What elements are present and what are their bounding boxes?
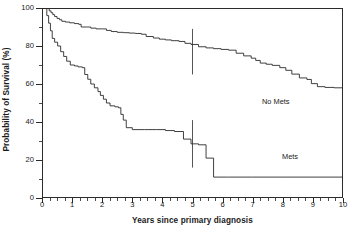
y-axis-title-text: Probability of Survival (%) xyxy=(2,47,11,151)
x-tick-minor xyxy=(230,198,231,201)
y-tick-label: 20 xyxy=(8,156,34,164)
x-tick-minor xyxy=(87,198,88,201)
x-tick-label: 9 xyxy=(303,201,323,209)
x-tick-minor xyxy=(50,198,51,201)
kaplan-meier-survival-figure: Probability of Survival (%) 020406080100… xyxy=(0,0,357,239)
x-tick-label: 8 xyxy=(273,201,293,209)
x-tick-minor xyxy=(170,198,171,201)
x-tick-minor xyxy=(117,198,118,201)
x-axis-title: Years since primary diagnosis xyxy=(42,216,343,225)
x-tick-minor xyxy=(140,198,141,201)
x-tick-minor xyxy=(290,198,291,201)
survival-curves xyxy=(42,8,343,198)
x-tick-minor xyxy=(320,198,321,201)
x-tick-label: 10 xyxy=(333,201,353,209)
x-tick-minor xyxy=(57,198,58,201)
x-tick-minor xyxy=(260,198,261,201)
x-tick-minor xyxy=(200,198,201,201)
x-tick-minor xyxy=(328,198,329,201)
y-axis-title: Probability of Survival (%) xyxy=(0,0,13,198)
x-tick-label: 7 xyxy=(243,201,263,209)
y-tick-label: 100 xyxy=(8,4,34,12)
x-tick-minor xyxy=(147,198,148,201)
x-tick-label: 3 xyxy=(122,201,142,209)
x-tick-minor xyxy=(238,198,239,201)
x-tick-label: 0 xyxy=(32,201,52,209)
x-tick-label: 2 xyxy=(92,201,112,209)
x-tick-minor xyxy=(208,198,209,201)
series-label-mets: Mets xyxy=(282,152,298,161)
x-tick-minor xyxy=(177,198,178,201)
x-tick-minor xyxy=(298,198,299,201)
series-label-no-mets: No Mets xyxy=(262,97,290,106)
x-tick-label: 5 xyxy=(183,201,203,209)
y-tick-label: 0 xyxy=(8,194,34,202)
y-tick-label: 60 xyxy=(8,80,34,88)
x-tick-minor xyxy=(268,198,269,201)
x-tick-minor xyxy=(80,198,81,201)
y-tick-label: 40 xyxy=(8,118,34,126)
x-tick-label: 4 xyxy=(152,201,172,209)
x-tick-label: 1 xyxy=(62,201,82,209)
x-tick-label: 6 xyxy=(213,201,233,209)
y-tick-label: 80 xyxy=(8,42,34,50)
x-tick-minor xyxy=(110,198,111,201)
